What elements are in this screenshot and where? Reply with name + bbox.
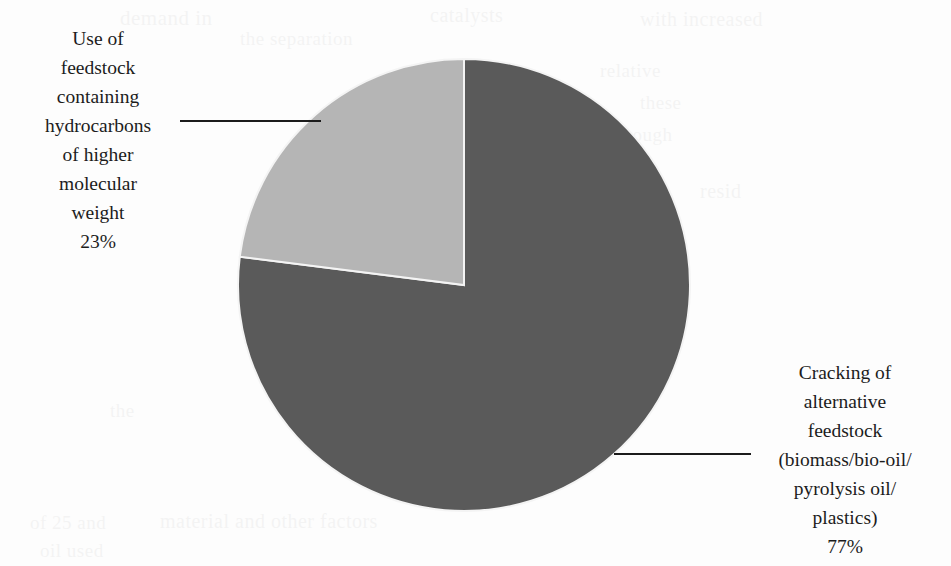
data-label-line: (biomass/bio-oil/ (752, 445, 938, 474)
leader-line-dark-slice (614, 453, 751, 455)
data-label-line: alternative (752, 387, 938, 416)
data-label-dark-slice: Cracking of alternative feedstock (bioma… (752, 358, 938, 561)
data-label-light-slice: Use of feedstock containing hydrocarbons… (10, 24, 186, 256)
data-label-line: feedstock (752, 416, 938, 445)
data-label-line: weight (10, 198, 186, 227)
data-label-line: molecular (10, 169, 186, 198)
pie-chart-figure: demand in the separation catalysts with … (0, 0, 951, 566)
data-label-line: plastics) (752, 503, 938, 532)
data-label-percent: 77% (752, 532, 938, 561)
data-label-line: hydrocarbons (10, 111, 186, 140)
data-label-line: containing (10, 82, 186, 111)
data-label-percent: 23% (10, 227, 186, 256)
data-label-line: pyrolysis oil/ (752, 474, 938, 503)
pie-slice (240, 59, 464, 285)
data-label-line: Cracking of (752, 358, 938, 387)
leader-line-light-slice (180, 120, 321, 122)
pie-slices-group (238, 59, 690, 511)
data-label-line: of higher (10, 140, 186, 169)
data-label-line: Use of (10, 24, 186, 53)
data-label-line: feedstock (10, 53, 186, 82)
